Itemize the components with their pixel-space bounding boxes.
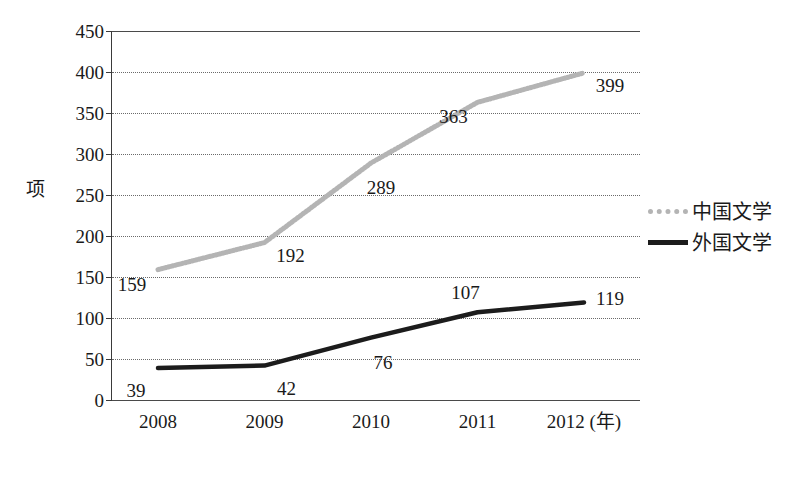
gridline bbox=[112, 277, 640, 278]
data-point-value-label: 39 bbox=[127, 381, 146, 400]
legend-item-foreign-literature[interactable]: 外国文学 bbox=[648, 227, 808, 258]
y-axis-tick bbox=[106, 236, 112, 237]
y-axis-unit-label: 项 bbox=[26, 180, 45, 199]
y-axis-tick bbox=[106, 113, 112, 114]
x-axis-tick-label: 2011 bbox=[459, 412, 496, 431]
x-axis-tick-label: 2010 bbox=[352, 412, 390, 431]
line-chart-figure: 项 050100150200250300350400450 2008200920… bbox=[0, 0, 811, 480]
gridline bbox=[112, 236, 640, 237]
gridline bbox=[112, 318, 640, 319]
data-point-value-label: 399 bbox=[596, 75, 625, 94]
y-axis-tick bbox=[106, 154, 112, 155]
data-point-value-label: 119 bbox=[596, 289, 624, 308]
y-axis-tick bbox=[106, 277, 112, 278]
gridline bbox=[112, 113, 640, 114]
data-point-value-label: 192 bbox=[276, 245, 305, 264]
y-axis-tick bbox=[106, 318, 112, 319]
y-axis-tick bbox=[106, 359, 112, 360]
data-point-value-label: 107 bbox=[451, 283, 480, 302]
y-axis-tick bbox=[106, 72, 112, 73]
gridline bbox=[112, 154, 640, 155]
legend-swatch-dotted-icon bbox=[648, 209, 688, 214]
y-axis-tick bbox=[106, 195, 112, 196]
y-axis-tick-label: 50 bbox=[58, 350, 104, 369]
y-axis-tick bbox=[106, 31, 112, 32]
gridline bbox=[112, 72, 640, 73]
legend-label: 外国文学 bbox=[692, 233, 772, 253]
gridline bbox=[112, 31, 640, 32]
data-point-value-label: 363 bbox=[439, 107, 468, 126]
y-axis-tick-label: 150 bbox=[58, 268, 104, 287]
x-axis-tick-label: 2012 (年) bbox=[547, 412, 621, 431]
y-axis-tick-label: 100 bbox=[58, 309, 104, 328]
y-axis-tick-labels: 050100150200250300350400450 bbox=[58, 31, 104, 400]
data-point-value-label: 76 bbox=[374, 352, 393, 371]
y-axis-spine bbox=[111, 31, 112, 400]
y-axis-tick bbox=[106, 400, 112, 401]
x-axis-tick-labels: 20082009201020112012 (年) bbox=[112, 412, 640, 440]
y-axis-tick-label: 0 bbox=[58, 391, 104, 410]
legend-item-chinese-literature[interactable]: 中国文学 bbox=[648, 196, 808, 227]
y-axis-tick-label: 300 bbox=[58, 145, 104, 164]
y-axis-tick-label: 450 bbox=[58, 22, 104, 41]
chart-legend: 中国文学 外国文学 bbox=[648, 196, 808, 258]
y-axis-tick-label: 350 bbox=[58, 104, 104, 123]
x-axis-tick-label: 2009 bbox=[246, 412, 284, 431]
x-axis-tick-label: 2008 bbox=[139, 412, 177, 431]
plot-area bbox=[112, 31, 640, 400]
legend-swatch-solid-icon bbox=[648, 240, 688, 245]
y-axis-tick-label: 400 bbox=[58, 63, 104, 82]
data-point-value-label: 159 bbox=[118, 274, 147, 293]
y-axis-tick-label: 200 bbox=[58, 227, 104, 246]
y-axis-tick-label: 250 bbox=[58, 186, 104, 205]
data-point-value-label: 289 bbox=[367, 178, 396, 197]
gridline bbox=[112, 400, 640, 401]
data-point-value-label: 42 bbox=[277, 378, 296, 397]
legend-label: 中国文学 bbox=[692, 202, 772, 222]
